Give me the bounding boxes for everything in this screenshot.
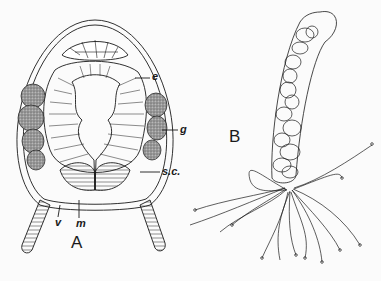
panel-label-a: A — [71, 233, 82, 253]
label-m: m — [76, 217, 86, 229]
panel-label-b: B — [229, 127, 240, 147]
label-g: g — [180, 123, 187, 135]
panel-b-drawing — [190, 12, 373, 264]
scientific-illustration — [0, 0, 381, 281]
label-sc: s.c. — [162, 165, 180, 177]
label-v: v — [55, 216, 61, 228]
panel-a-drawing — [17, 20, 178, 253]
label-e: e — [152, 70, 158, 82]
